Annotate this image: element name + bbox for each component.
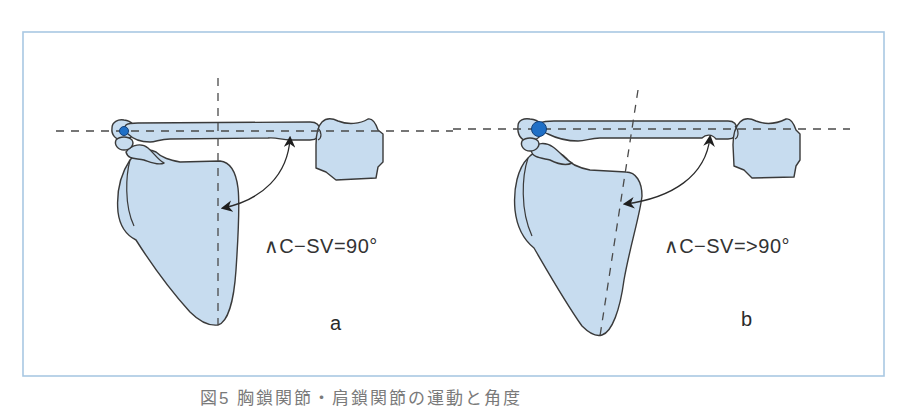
angle-label-b: ∧C−SV=>90° [664,236,790,256]
panel-letter-a: a [330,313,341,333]
scapula-a [118,150,239,325]
panel-a [56,78,453,325]
scapula-b [515,150,642,336]
clavicle-a [125,122,320,142]
panel-letter-b: b [741,309,752,329]
clavicle-b [539,121,737,141]
sternum-a [316,119,383,180]
acromioclavicular-joint-dot-b [532,122,547,137]
acromioclavicular-joint-dot-a [120,127,129,136]
figure-caption: 図5 胸鎖関節・肩鎖関節の運動と角度 [200,390,522,407]
sternum-b [733,119,800,178]
panel-b [453,90,850,336]
angle-label-a: ∧C−SV=90° [264,236,378,256]
